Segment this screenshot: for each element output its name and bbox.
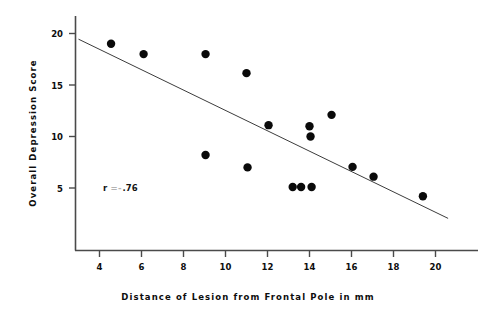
x-tick-label-14: 14 — [304, 262, 316, 272]
x-tick-label-18: 18 — [388, 262, 400, 272]
correlation-minus-sign: - — [118, 183, 122, 193]
x-tick-label-20: 20 — [430, 262, 442, 272]
data-point — [289, 183, 297, 191]
x-tick-label-12: 12 — [262, 262, 274, 272]
data-point — [107, 40, 115, 48]
x-tick-label-6: 6 — [139, 262, 145, 272]
data-point — [264, 121, 272, 129]
correlation-r-symbol: r — [103, 183, 108, 193]
correlation-equals-sign: = — [111, 183, 118, 193]
y-tick-label-20: 20 — [51, 29, 63, 39]
data-point — [348, 163, 356, 171]
data-point — [306, 132, 314, 140]
x-axis-title: Distance of Lesion from Frontal Pole in … — [121, 292, 374, 302]
data-point — [242, 69, 250, 77]
data-point — [307, 183, 315, 191]
data-points-group — [107, 40, 427, 201]
x-tick-label-8: 8 — [181, 262, 187, 272]
y-tick-label-5: 5 — [57, 184, 63, 194]
data-point — [369, 172, 377, 180]
x-tick-label-4: 4 — [97, 262, 103, 272]
data-point — [297, 183, 305, 191]
x-tick-labels: 4 6 8 10 12 14 16 18 20 — [97, 262, 442, 272]
data-point — [419, 192, 427, 200]
y-tick-label-15: 15 — [51, 81, 63, 91]
plot-canvas: 20 15 10 5 4 6 8 10 12 14 16 18 2 — [0, 0, 495, 315]
scatter-plot-figure: 20 15 10 5 4 6 8 10 12 14 16 18 2 — [0, 0, 495, 315]
data-point — [201, 50, 209, 58]
correlation-value: .76 — [123, 183, 138, 193]
y-tick-marks — [69, 34, 75, 189]
data-point — [305, 122, 313, 130]
data-point — [327, 111, 335, 119]
x-tick-label-16: 16 — [346, 262, 358, 272]
axes-group — [75, 16, 478, 251]
y-tick-label-10: 10 — [51, 132, 63, 142]
y-tick-labels: 20 15 10 5 — [51, 29, 63, 194]
data-point — [201, 151, 209, 159]
x-tick-marks — [100, 251, 436, 257]
y-axis-title: Overall Depression Score — [28, 59, 38, 206]
x-tick-label-10: 10 — [220, 262, 232, 272]
data-point — [243, 163, 251, 171]
correlation-annotation: r = - .76 — [103, 183, 138, 193]
data-point — [139, 50, 147, 58]
